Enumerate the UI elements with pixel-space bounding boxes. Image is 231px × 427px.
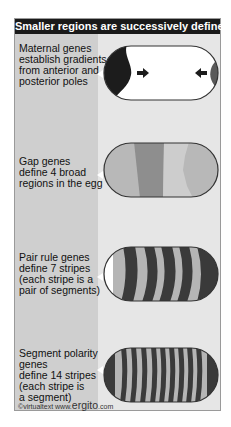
egg-maternal-gradients	[103, 45, 219, 101]
copyright-footer: ©virtualtext www.ergito.com	[18, 399, 113, 411]
egg-pair-rule-stripes	[103, 246, 219, 302]
egg-gap-regions	[103, 142, 219, 198]
label-pair-rule-genes: Pair rule genes define 7 stripes (each s…	[19, 252, 100, 296]
label-gap-genes: Gap genes define 4 broad regions in the …	[19, 156, 102, 189]
label-segment-polarity-genes: Segment polarity genes define 14 stripes…	[19, 348, 98, 403]
diagram-panel: Smaller regions are successively defined…	[14, 18, 221, 411]
brand-name: ergito	[72, 399, 98, 411]
label-maternal-genes: Maternal genes establish gradients from …	[19, 43, 107, 87]
brand-tld: .com	[98, 403, 113, 410]
copyright-text: ©virtualtext www.	[18, 403, 72, 410]
diagram-title: Smaller regions are successively defined	[15, 19, 220, 34]
egg-segment-polarity-stripes	[103, 347, 219, 403]
